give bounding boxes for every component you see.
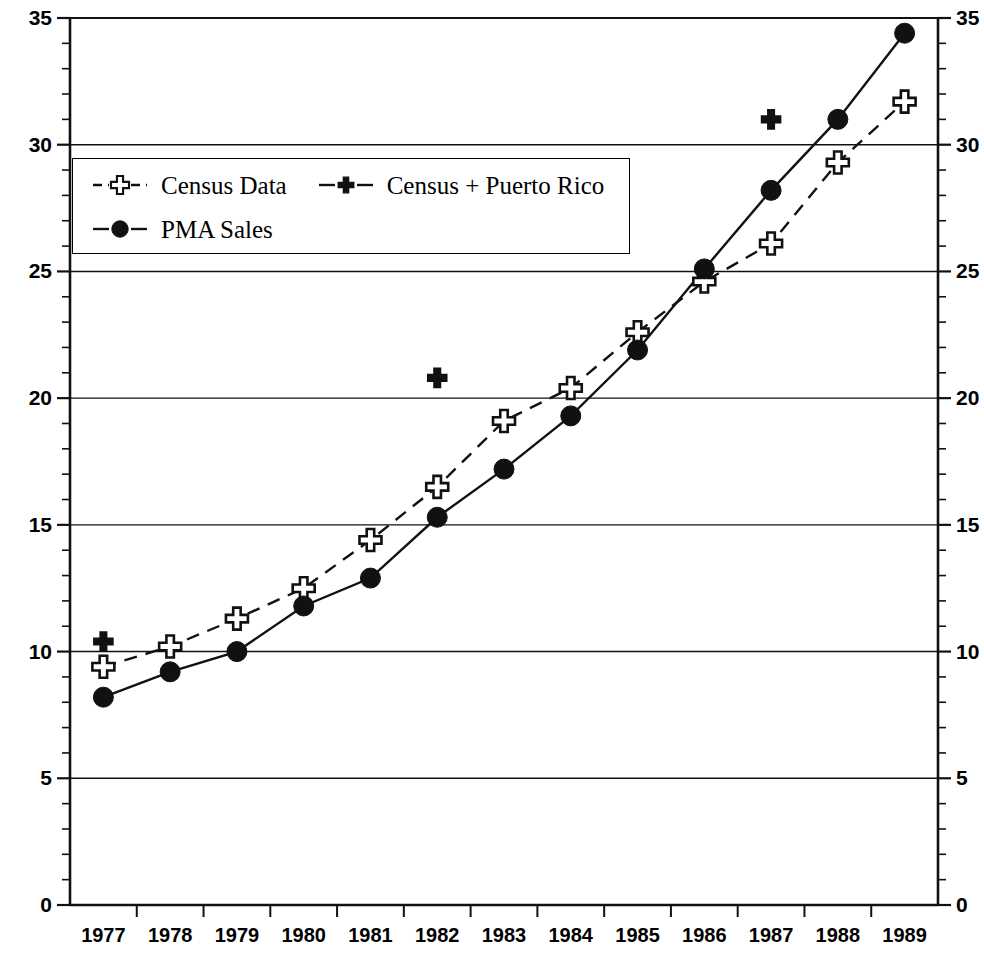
data-point-pma-sales-1980 [294,596,314,616]
y-axis-label-right-0: 0 [956,894,984,915]
x-axis-label-1987: 1987 [738,925,805,945]
y-axis-label-left-20: 20 [0,387,52,408]
legend-label-census-plus-puerto-rico: Census + Puerto Rico [387,173,605,198]
data-point-pma-sales-1977 [93,687,113,707]
legend-marker-filled-circle [112,221,128,237]
data-point-pma-sales-1987 [761,180,781,200]
data-point-census-data-1977 [92,656,114,678]
x-axis-label-1982: 1982 [404,925,471,945]
x-axis-label-1980: 1980 [270,925,337,945]
x-axis-label-1979: 1979 [204,925,271,945]
legend: Census DataCensus + Puerto RicoPMA Sales [72,158,630,254]
y-axis-label-right-15: 15 [956,514,984,535]
data-point-census-data-1987 [760,233,782,255]
x-axis-label-1989: 1989 [871,925,938,945]
data-point-census-data-1979 [226,608,248,630]
data-point-pma-sales-1984 [561,406,581,426]
y-axis-label-right-20: 20 [956,387,984,408]
legend-entry-pma-sales[interactable]: PMA Sales [91,216,273,242]
y-axis-label-left-30: 30 [0,134,52,155]
y-axis-label-left-15: 15 [0,514,52,535]
legend-marker-open-cross [111,176,129,194]
data-point-pma-sales-1981 [360,568,380,588]
y-axis-label-right-35: 35 [956,7,984,28]
x-axis-label-1977: 1977 [70,925,137,945]
data-point-census-data-1988 [827,151,849,173]
data-point-census-puerto-rico-1977 [94,632,113,651]
legend-label-census-data: Census Data [161,173,287,198]
data-point-pma-sales-1989 [895,23,915,43]
x-axis-label-1984: 1984 [537,925,604,945]
legend-key-filled-circle [91,216,149,242]
x-axis-label-1988: 1988 [804,925,871,945]
legend-entry-census-data[interactable]: Census Data [91,172,287,198]
y-axis-label-right-10: 10 [956,641,984,662]
x-axis-label-1985: 1985 [604,925,671,945]
y-axis-label-right-30: 30 [956,134,984,155]
y-axis-label-left-5: 5 [0,767,52,788]
data-point-pma-sales-1983 [494,459,514,479]
data-point-census-data-1978 [159,636,181,658]
data-point-pma-sales-1982 [427,507,447,527]
legend-entry-census-plus-puerto-rico[interactable]: Census + Puerto Rico [317,172,605,198]
y-axis-label-right-25: 25 [956,260,984,281]
data-point-pma-sales-1979 [227,642,247,662]
data-point-pma-sales-1978 [160,662,180,682]
legend-key-open-cross [91,172,149,198]
data-point-pma-sales-1988 [828,109,848,129]
data-point-census-data-1989 [894,91,916,113]
x-axis-label-1983: 1983 [471,925,538,945]
legend-marker-filled-cross [338,177,354,193]
y-axis-label-left-35: 35 [0,7,52,28]
series-line-pma-sales [103,33,904,697]
data-point-pma-sales-1986 [694,259,714,279]
x-axis-label-1981: 1981 [337,925,404,945]
x-axis-label-1978: 1978 [137,925,204,945]
y-axis-label-left-0: 0 [0,894,52,915]
legend-row-2: PMA Sales [91,207,629,251]
data-point-census-puerto-rico-1982 [428,368,447,387]
x-axis-label-1986: 1986 [671,925,738,945]
data-point-census-data-1981 [359,529,381,551]
legend-row-1: Census DataCensus + Puerto Rico [91,163,629,207]
y-axis-label-right-5: 5 [956,767,984,788]
y-axis-label-left-10: 10 [0,641,52,662]
legend-key-filled-cross [317,172,375,198]
y-axis-label-left-25: 25 [0,260,52,281]
legend-label-pma-sales: PMA Sales [161,217,273,242]
data-point-census-data-1982 [426,476,448,498]
data-point-pma-sales-1985 [628,340,648,360]
data-point-census-puerto-rico-1987 [762,110,781,129]
